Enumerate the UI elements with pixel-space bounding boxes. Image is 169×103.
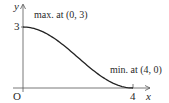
annotation-max: max. at (0, 3) [34, 10, 88, 20]
x-tick-label-4: 4 [130, 91, 136, 102]
data-curve [23, 27, 133, 88]
annotation-min: min. at (4, 0) [110, 65, 162, 75]
x-axis-label: x [146, 91, 151, 102]
y-axis-label: y [14, 1, 19, 12]
y-tick-label-3: 3 [14, 21, 20, 32]
origin-label: O [13, 91, 21, 102]
